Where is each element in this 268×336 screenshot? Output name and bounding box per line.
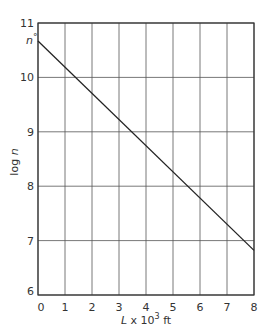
y-tick-label: 10 xyxy=(20,71,34,84)
x-axis-ticks: 012345678 xyxy=(38,301,258,314)
chart-canvas: 012345678 67891011 n° log n L x 103 ft xyxy=(0,0,268,336)
y-axis-label: log n xyxy=(8,148,21,175)
y-tick-label: 8 xyxy=(27,180,34,193)
y-axis-ticks: 67891011 xyxy=(20,17,34,298)
y-tick-label: 7 xyxy=(27,235,34,248)
x-tick-label: 3 xyxy=(116,301,123,314)
x-axis-label: L x 103 ft xyxy=(121,312,172,327)
x-tick-label: 7 xyxy=(224,301,231,314)
x-tick-label: 1 xyxy=(62,301,69,314)
grid-lines xyxy=(38,23,254,295)
y-tick-label: 6 xyxy=(27,285,34,298)
x-tick-label: 8 xyxy=(251,301,258,314)
x-tick-label: 5 xyxy=(170,301,177,314)
x-tick-label: 0 xyxy=(38,301,45,314)
y-tick-label: 9 xyxy=(27,126,34,139)
x-tick-label: 4 xyxy=(143,301,150,314)
y-tick-label: 11 xyxy=(20,17,34,30)
x-tick-label: 6 xyxy=(197,301,204,314)
x-tick-label: 2 xyxy=(89,301,96,314)
intercept-label: n° xyxy=(26,32,37,47)
